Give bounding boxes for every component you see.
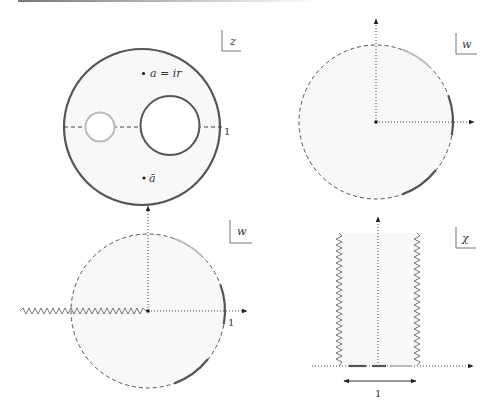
top-rule xyxy=(18,0,318,2)
w-tick-1: 1 xyxy=(228,317,234,328)
point-a-bar-label: ā xyxy=(149,172,156,185)
z-plane-panel: a = ir ā 1 z xyxy=(64,30,241,205)
point-a-label: a = ir xyxy=(150,67,182,80)
plane-label-w: w xyxy=(237,225,247,238)
figure-canvas: a = ir ā 1 z w 1 w xyxy=(0,0,496,412)
large-hole-circle xyxy=(141,96,200,155)
plane-label-w: w xyxy=(462,38,472,51)
small-hole-circle xyxy=(86,113,115,142)
z-tick-1: 1 xyxy=(224,126,230,137)
plane-label-z: z xyxy=(229,35,236,48)
chi-plane-panel: 1 χ xyxy=(312,217,476,399)
point-a xyxy=(142,72,145,75)
point-a-bar xyxy=(142,176,145,179)
plane-label-chi: χ xyxy=(461,232,470,245)
w-plane-bottom-panel: 1 w xyxy=(20,206,252,388)
w-plane-top-panel: w xyxy=(299,19,477,199)
origin-point xyxy=(147,310,150,313)
origin-point xyxy=(375,121,378,124)
width-label: 1 xyxy=(375,388,381,399)
